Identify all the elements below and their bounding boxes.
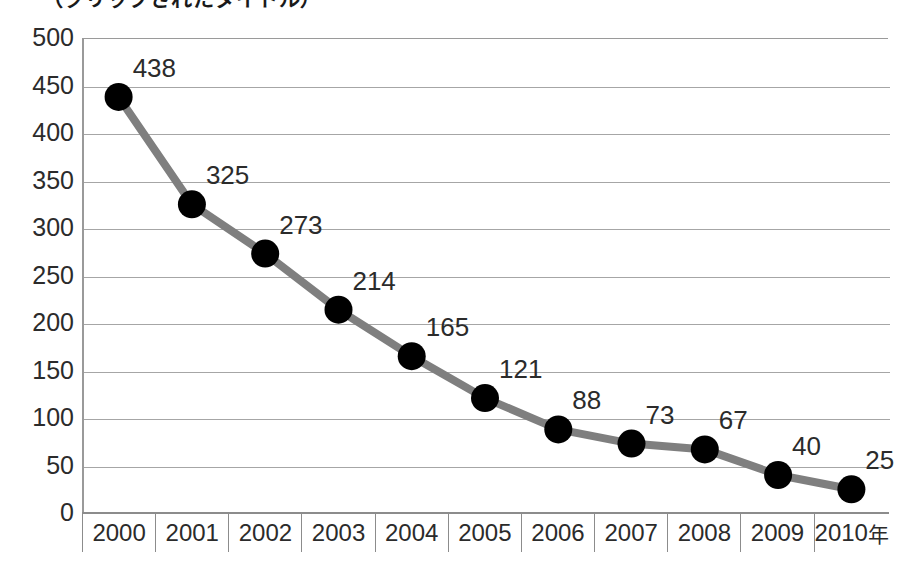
x-axis-tick-label: 2001: [156, 514, 229, 552]
x-axis-labels: 2000200120022003200420052006200720082009…: [82, 514, 889, 552]
data-point-marker[interactable]: [325, 296, 353, 324]
data-point-marker[interactable]: [105, 83, 133, 111]
data-point-label: 25: [865, 447, 894, 473]
x-axis-tick-label: 2003: [302, 514, 375, 552]
data-point-marker[interactable]: [178, 190, 206, 218]
x-axis-tick-label: 2006: [522, 514, 595, 552]
data-point-marker[interactable]: [764, 461, 792, 489]
x-axis-tick-label: 2007: [595, 514, 668, 552]
series-markers: [105, 83, 866, 503]
x-axis-tick-label: 2002: [229, 514, 302, 552]
data-point-marker[interactable]: [251, 240, 279, 268]
data-point-label: 88: [572, 387, 601, 413]
data-point-label: 214: [352, 268, 395, 294]
x-axis-tick-label: 2009: [741, 514, 814, 552]
series-layer: [0, 0, 918, 566]
x-axis-tick-label: 2008: [668, 514, 741, 552]
data-point-label: 73: [646, 402, 675, 428]
data-point-label: 325: [206, 162, 249, 188]
data-point-label: 438: [133, 55, 176, 81]
data-point-label: 67: [719, 407, 748, 433]
data-point-marker[interactable]: [544, 415, 572, 443]
data-point-label: 165: [426, 314, 469, 340]
data-point-marker[interactable]: [618, 430, 646, 458]
data-point-label: 40: [792, 433, 821, 459]
data-point-label: 121: [499, 356, 542, 382]
data-point-marker[interactable]: [837, 475, 865, 503]
data-point-marker[interactable]: [398, 342, 426, 370]
x-axis-tick-label: 2004: [376, 514, 449, 552]
x-axis-tick-label: 2005: [449, 514, 522, 552]
x-axis-tick-label: 2010年: [815, 514, 889, 552]
x-axis-tick-label: 2000: [82, 514, 156, 552]
line-chart: 050100150200250300350400450500 438325273…: [0, 0, 918, 566]
data-point-marker[interactable]: [691, 435, 719, 463]
data-point-label: 273: [279, 212, 322, 238]
x-axis-unit-suffix: 年: [868, 518, 889, 548]
data-point-marker[interactable]: [471, 384, 499, 412]
